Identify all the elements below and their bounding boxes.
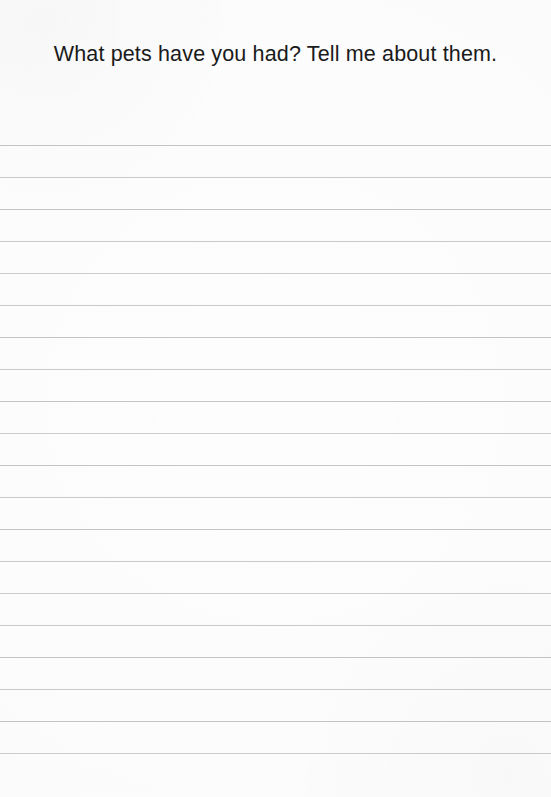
writing-rule-line xyxy=(0,721,551,722)
writing-rule-line xyxy=(0,529,551,530)
writing-rule-line xyxy=(0,689,551,690)
writing-rule-line xyxy=(0,209,551,210)
writing-rule-line xyxy=(0,657,551,658)
writing-rule-line xyxy=(0,561,551,562)
writing-rule-line xyxy=(0,305,551,306)
ruled-writing-area[interactable] xyxy=(0,0,551,797)
writing-rule-line xyxy=(0,369,551,370)
writing-rule-line xyxy=(0,497,551,498)
writing-rule-line xyxy=(0,145,551,146)
writing-rule-line xyxy=(0,753,551,754)
writing-rule-line xyxy=(0,625,551,626)
writing-rule-line xyxy=(0,593,551,594)
writing-rule-line xyxy=(0,401,551,402)
writing-rule-line xyxy=(0,177,551,178)
journal-page: What pets have you had? Tell me about th… xyxy=(0,0,551,797)
writing-rule-line xyxy=(0,337,551,338)
writing-rule-line xyxy=(0,273,551,274)
writing-rule-line xyxy=(0,433,551,434)
page-title: What pets have you had? Tell me about th… xyxy=(0,38,551,71)
writing-rule-line xyxy=(0,465,551,466)
writing-rule-line xyxy=(0,241,551,242)
